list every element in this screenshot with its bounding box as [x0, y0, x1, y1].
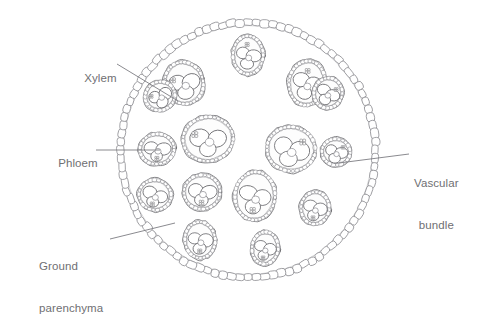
- xylem-parenchyma-cell: [155, 148, 161, 154]
- bundle-sheath-cell: [203, 173, 207, 176]
- xylem-parenchyma-cell: [287, 148, 296, 156]
- label-vascular-bundle-line2: bundle: [414, 218, 459, 232]
- xylem-parenchyma-cell: [312, 208, 318, 213]
- xylem-parenchyma-cell: [334, 152, 339, 157]
- epidermis-cell: [218, 270, 228, 280]
- label-xylem: Xylem: [71, 58, 117, 99]
- label-phloem: Phloem: [45, 143, 98, 184]
- label-phloem-text: Phloem: [58, 157, 98, 169]
- vascular-bundles-layer: [136, 34, 352, 267]
- vascular-bundle: [250, 230, 281, 267]
- xylem-parenchyma-cell: [263, 248, 268, 253]
- vascular-bundle: [312, 76, 345, 110]
- bundle-sheath-cell: [182, 191, 185, 195]
- epidermis-cell: [235, 20, 244, 28]
- vascular-bundle: [136, 177, 173, 212]
- xylem-parenchyma-cell: [246, 55, 252, 61]
- label-ground-parenchyma: Ground parenchyma: [39, 231, 103, 318]
- vascular-bundle: [182, 220, 217, 261]
- vascular-bundle: [299, 190, 332, 226]
- epidermis-cell: [260, 20, 270, 28]
- xylem-parenchyma-cell: [205, 138, 214, 146]
- epidermis-cell: [120, 120, 128, 130]
- bundle-sheath-cell: [299, 204, 302, 208]
- xylem-parenchyma-cell: [200, 191, 207, 197]
- vascular-bundle: [232, 170, 277, 222]
- vascular-bundle: [137, 132, 176, 166]
- vascular-bundle: [181, 115, 235, 163]
- bundle-sheath-cell: [299, 209, 302, 213]
- xylem-parenchyma-cell: [152, 195, 158, 201]
- xylem-parenchyma-cell: [159, 95, 165, 100]
- vascular-bundle: [143, 79, 177, 112]
- vascular-bundle: [182, 173, 222, 212]
- xylem-parenchyma-cell: [252, 196, 260, 203]
- xylem-parenchyma-cell: [182, 82, 190, 89]
- label-ground-parenchyma-line1: Ground: [39, 259, 103, 273]
- vascular-bundle: [320, 136, 352, 167]
- vascular-bundle: [231, 34, 266, 77]
- label-ground-parenchyma-line2: parenchyma: [39, 301, 103, 315]
- label-vascular-bundle: Vascular bundle: [414, 148, 459, 260]
- phloem-cluster: [261, 256, 265, 260]
- vascular-bundle: [265, 125, 317, 174]
- xylem-parenchyma-cell: [325, 93, 331, 98]
- label-xylem-text: Xylem: [84, 72, 116, 84]
- epidermis-cell: [244, 273, 252, 280]
- xylem-parenchyma-cell: [198, 240, 204, 246]
- bundle-sheath-cell: [154, 162, 158, 165]
- bundle-sheath-cell: [287, 83, 291, 87]
- label-vascular-bundle-line1: Vascular: [414, 176, 459, 190]
- epidermis-cell: [117, 137, 125, 146]
- phloem-cluster: [341, 146, 345, 150]
- epidermis-cell: [252, 273, 261, 281]
- bundle-sheath-cell: [291, 169, 295, 172]
- bundle-sheath-cell: [288, 78, 291, 82]
- xylem-parenchyma-cell: [304, 83, 311, 90]
- epidermis-cell: [371, 162, 379, 171]
